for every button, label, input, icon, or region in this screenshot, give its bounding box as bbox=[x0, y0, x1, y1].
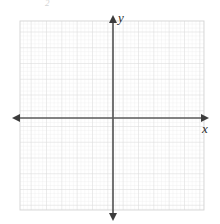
grid-area bbox=[20, 21, 204, 210]
x-axis-label: x bbox=[201, 121, 208, 136]
y-axis-label: y bbox=[116, 10, 124, 25]
grid-fill bbox=[20, 21, 204, 210]
crop-artifact-glyph: 2 bbox=[45, 0, 50, 8]
coordinate-plane-svg: 2 y x bbox=[0, 0, 220, 224]
coordinate-grid-figure: 2 y x bbox=[0, 0, 220, 224]
